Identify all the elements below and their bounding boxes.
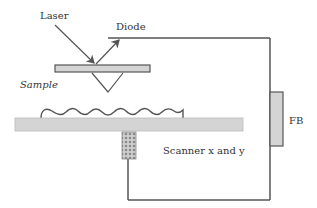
laser-beam-arrow [55, 25, 94, 63]
reflected-beam-arrow [96, 40, 119, 64]
scanner-label: Scanner x and y [163, 145, 245, 156]
sample-surface [41, 108, 183, 118]
feedback-box [270, 92, 283, 146]
sample-stage [15, 118, 243, 131]
piezo-scanner [122, 132, 136, 159]
diode-label: Diode [116, 21, 146, 32]
sample-label: Sample [20, 79, 58, 90]
probe-tip [92, 73, 123, 92]
laser-label: Laser [40, 10, 69, 21]
cantilever [55, 65, 150, 72]
feedback-label: FB [289, 115, 303, 126]
afm-diagram: Laser Diode Sample FB Scanner x and y [0, 0, 317, 208]
